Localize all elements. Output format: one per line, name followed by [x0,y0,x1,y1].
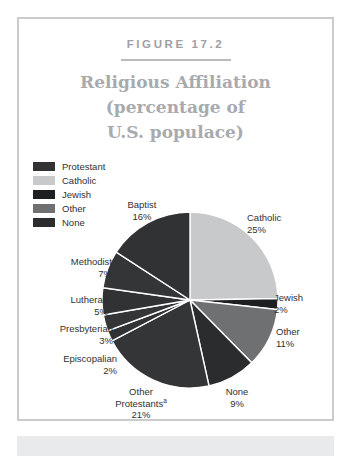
callout-none-name: None [226,386,249,397]
title-line-3: U.S. populace) [0,120,351,145]
callout-baptist-pct: 16% [114,211,170,223]
callout-baptist: Baptist 16% [114,199,170,222]
callout-other-pct: 11% [276,338,300,350]
callout-other-protestants-name2: Protestantsa [93,398,189,410]
callout-lutheran-pct: 5% [25,306,108,318]
callout-other-protestants-name: Other [129,386,153,397]
legend-label-jewish: Jewish [62,189,91,200]
title-line-1: Religious Affiliation [0,70,351,95]
figure-card: FIGURE 17.2 Religious Affiliation (perce… [0,0,351,456]
callout-lutheran: Lutheran 5% [25,294,108,317]
callout-other-protestants-pct: 21% [93,409,189,421]
callout-jewish-pct: 2% [274,304,303,316]
callout-methodist: Methodist 7% [29,256,112,279]
callout-episcopalian-name: Episcopalian [63,353,117,364]
callout-methodist-pct: 7% [29,268,112,280]
legend-swatch-protestant [33,162,55,171]
figure-number-label: FIGURE 17.2 [0,38,351,50]
callout-episcopalian: Episcopalian 2% [21,353,117,376]
legend-label-other: Other [62,203,86,214]
legend-item-catholic: Catholic [33,173,153,187]
legend-label-none: None [62,217,85,228]
callout-other: Other 11% [276,326,300,349]
callout-methodist-name: Methodist [71,256,112,267]
callout-none: None 9% [215,386,259,409]
callout-catholic: Catholic 25% [247,212,281,235]
figure-divider-rule [121,59,231,61]
callout-jewish: Jewish 2% [274,292,303,315]
legend-label-catholic: Catholic [62,175,96,186]
callout-episcopalian-pct: 2% [21,365,117,377]
title-line-2: (percentage of [0,95,351,120]
bottom-band [17,436,334,456]
page-title: Religious Affiliation (percentage of U.S… [0,70,351,145]
callout-presbyterian: Presbyterian 3% [17,323,113,346]
legend-swatch-catholic [33,176,55,185]
callout-catholic-pct: 25% [247,224,281,236]
legend-label-protestant: Protestant [62,161,105,172]
callout-other-name: Other [276,326,300,337]
callout-baptist-name: Baptist [127,199,156,210]
callout-jewish-name: Jewish [274,292,303,303]
callout-catholic-name: Catholic [247,212,281,223]
callout-lutheran-name: Lutheran [70,294,108,305]
legend-item-protestant: Protestant [33,159,153,173]
callout-none-pct: 9% [215,398,259,410]
legend-swatch-jewish [33,190,55,199]
callout-presbyterian-name: Presbyterian [60,323,113,334]
callout-other-protestants: Other Protestantsa 21% [93,386,189,421]
callout-presbyterian-pct: 3% [17,335,113,347]
legend-swatch-other [33,204,55,213]
legend-swatch-none [33,218,55,227]
callout-footnote-marker: a [163,396,167,403]
